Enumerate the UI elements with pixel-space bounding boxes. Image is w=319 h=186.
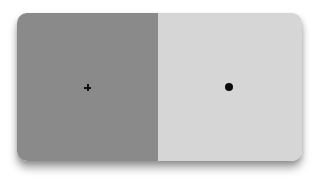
stimulus-panel: [17, 13, 302, 161]
stimulus-figure: [0, 0, 319, 186]
dark-gray-half: [17, 13, 158, 161]
fixation-cross-icon: [84, 84, 91, 91]
dot-icon: [225, 83, 233, 91]
light-gray-half: [158, 13, 302, 161]
cropped-caption-text: [0, 0, 319, 3]
